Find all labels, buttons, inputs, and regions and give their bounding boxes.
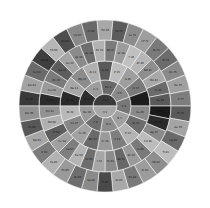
- segment-label: Au 79: [174, 126, 182, 129]
- segment-label: B 5: [117, 92, 122, 95]
- segment-label: Cl 17: [132, 87, 139, 90]
- segment-label: Re 75: [169, 71, 177, 74]
- segment-label: Fe 26: [79, 132, 86, 135]
- segment-label: Ar 18: [84, 98, 91, 101]
- segment-label: Np 93: [33, 139, 41, 142]
- segment-label: Si 14: [102, 69, 109, 72]
- segment-label: Os 76: [174, 84, 182, 87]
- segment-label: Hg 80: [169, 139, 177, 142]
- segment-label: O 8: [106, 123, 111, 126]
- segment-label: Rh 45: [156, 110, 164, 113]
- segment-label: Ga 31: [58, 69, 66, 72]
- segment-label: Sc 21: [132, 122, 140, 125]
- segment-label: Kr 36: [67, 99, 74, 102]
- segment-label: La 57: [66, 148, 74, 151]
- segment-label: Ag 47: [150, 131, 158, 134]
- segment-label: Sb 51: [117, 158, 125, 161]
- segment-label: Th 90: [61, 169, 69, 172]
- segment-label: Cu 29: [48, 89, 56, 92]
- segment-label: Mo 42: [150, 79, 158, 82]
- segment-label: Sm 62: [28, 84, 37, 87]
- segment-label: Dy 66: [61, 40, 69, 43]
- segment-label: K 19: [137, 99, 143, 102]
- segment-label: Ru 44: [156, 99, 164, 102]
- segment-label: Ge 32: [66, 62, 74, 65]
- segment-label: Ta 73: [153, 49, 160, 52]
- segment-label: Pa 91: [50, 161, 58, 164]
- segment-label: Tm 69: [101, 29, 110, 32]
- segment-label: F 9: [94, 121, 98, 124]
- segment-label: Nb 41: [144, 69, 152, 72]
- segment-label: Rn 86: [26, 98, 34, 101]
- segment-label: Pb 82: [153, 161, 161, 164]
- segment-label: V 23: [114, 138, 120, 141]
- segment-label: Xe 54: [46, 99, 54, 102]
- segment-label: Te 52: [107, 160, 114, 163]
- sunburst-chart: He 2H 1Ar 18Li 3Be 4B 5C 6N 7O 8F 9Ne 10…: [0, 0, 210, 208]
- segment-label: Tl 81: [162, 151, 169, 154]
- segment-label: Fr 87: [102, 181, 109, 184]
- segment-label: Rb 37: [107, 49, 115, 52]
- segment-label: S 16: [125, 78, 131, 81]
- segment-label: Ne 10: [83, 111, 91, 114]
- segment-label: Yb 70: [115, 30, 123, 33]
- segment-label: Pd 46: [154, 121, 162, 124]
- segment-label: Po 84: [129, 176, 137, 179]
- segment-label: Lu 71: [129, 34, 137, 37]
- segment-label: Sr 38: [118, 52, 125, 55]
- segment-label: Gd 64: [40, 59, 48, 62]
- segment-label: Be 4: [105, 86, 111, 89]
- segment-label: Pu 94: [28, 126, 36, 129]
- segment-label: Ba 56: [75, 154, 83, 157]
- segment-label: Ce 58: [58, 140, 66, 143]
- segment-label: Mn 25: [89, 138, 97, 141]
- segment-label: H 1: [103, 111, 108, 114]
- segment-label: P 15: [114, 71, 120, 74]
- segment-label: Ca 20: [136, 111, 144, 114]
- segment-label: Ra 88: [87, 179, 95, 182]
- segment-label: Al 13: [90, 71, 97, 74]
- segment-label: Se 34: [85, 52, 93, 55]
- segment-label: N 7: [117, 117, 122, 120]
- segment-label: Er 68: [88, 30, 95, 33]
- segment-label: Br 35: [96, 49, 103, 52]
- segment-label: Zr 40: [137, 62, 144, 65]
- segment-label: Ti 22: [125, 132, 132, 135]
- segment-label: W 74: [162, 59, 169, 62]
- segment-label: Ir 77: [178, 98, 184, 101]
- segment-label: Li 3: [93, 88, 98, 91]
- segment-label: Ho 67: [74, 34, 82, 37]
- segment-label: Mg 12: [78, 78, 86, 81]
- segment-label: As 33: [75, 56, 83, 59]
- segment-label: Ac 89: [74, 176, 82, 179]
- segment-label: Tc 43: [155, 89, 162, 92]
- segment-label: Hf 72: [142, 40, 149, 43]
- segment-label: In 49: [137, 148, 144, 151]
- segment-label: Na 11: [70, 87, 78, 90]
- segment-label: U 92: [41, 151, 47, 154]
- segment-label: Am 95: [25, 112, 34, 115]
- segment-label: Cr 24: [101, 140, 108, 143]
- segment-label: Cd 48: [144, 140, 152, 143]
- segment-label: Cs 55: [85, 158, 93, 161]
- segment-label: I 53: [97, 160, 102, 163]
- segment-label: Pt 78: [177, 112, 184, 115]
- segment-label: Pr 59: [53, 131, 60, 134]
- segment-label: Y 39: [128, 56, 134, 59]
- segment-label: At 85: [116, 179, 123, 182]
- segment-label: Sn 50: [127, 154, 135, 157]
- segment-label: Nd 60: [48, 121, 56, 124]
- segment-label: He 2: [102, 99, 108, 102]
- segment-label: Ni 28: [67, 111, 74, 114]
- segment-label: Tb 65: [50, 49, 58, 52]
- segment-label: Bi 83: [142, 169, 149, 172]
- segment-label: Zn 30: [52, 79, 60, 82]
- segment-label: C 6: [122, 105, 127, 108]
- segment-label: Co 27: [70, 122, 78, 125]
- segment-label: Eu 63: [33, 71, 41, 74]
- segment-label: Pm 61: [46, 110, 55, 113]
